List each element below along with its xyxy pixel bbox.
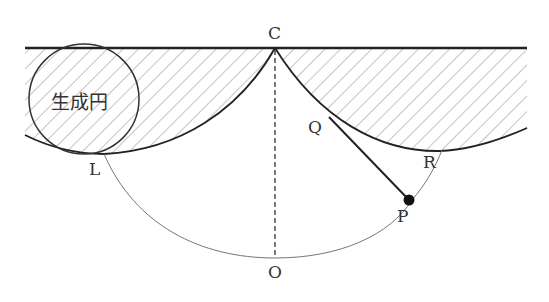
label-p: P: [397, 206, 408, 226]
label-l: L: [89, 159, 100, 179]
label-o: O: [268, 262, 282, 282]
swing-path-cycloid: [104, 150, 442, 258]
label-q: Q: [308, 117, 322, 137]
pendulum-bob: [404, 195, 415, 206]
cycloid-pendulum-diagram: C Q L R P O 生成円: [0, 0, 549, 302]
label-r: R: [423, 152, 437, 172]
label-c: C: [268, 23, 281, 43]
label-generating-circle: 生成円: [51, 91, 108, 113]
